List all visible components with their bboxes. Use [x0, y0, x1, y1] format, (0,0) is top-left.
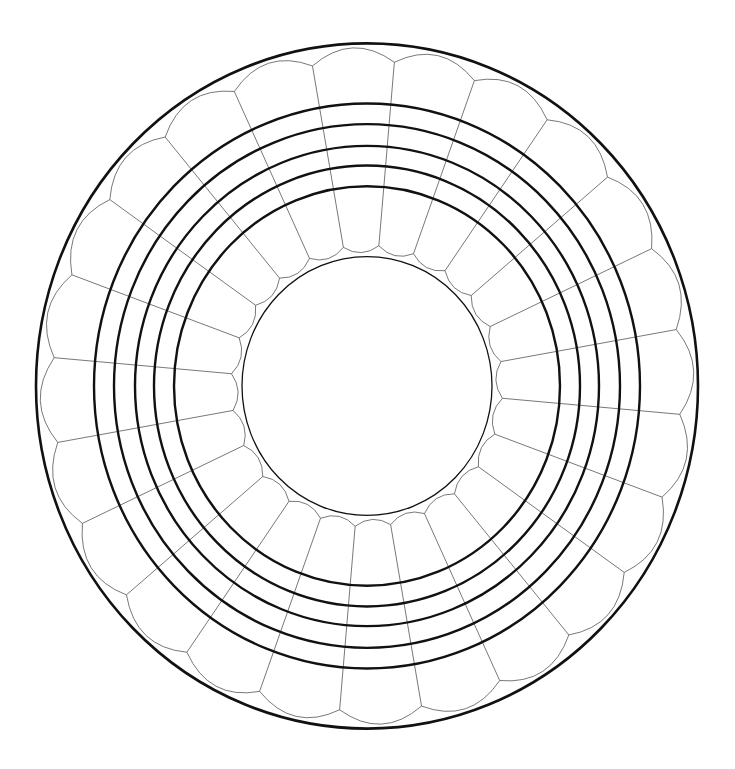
radial-spoke [424, 514, 499, 681]
radial-spokes [54, 62, 680, 710]
radial-spoke [379, 62, 395, 246]
ring-2 [154, 166, 580, 607]
diagram-svg [0, 0, 735, 769]
radial-spoke [501, 330, 676, 362]
inner-circle-group [242, 257, 492, 516]
radial-spoke [58, 410, 233, 442]
inner-scallop-boundary [232, 246, 503, 526]
inner-circle [242, 257, 492, 516]
radial-spoke [391, 525, 422, 706]
radial-spoke [312, 66, 343, 247]
radial-spoke [82, 445, 243, 523]
outer-scallop-path [40, 48, 693, 724]
ring-1 [174, 186, 560, 586]
radial-spoke [502, 398, 679, 414]
ring-5 [94, 103, 640, 668]
concentric-rings [94, 103, 640, 668]
radial-spoke [490, 249, 651, 327]
ring-4 [114, 124, 620, 648]
radial-spoke [234, 91, 309, 258]
ring-diagram [0, 0, 735, 769]
ring-3 [135, 146, 599, 626]
radial-spoke [54, 358, 231, 374]
radial-spoke [340, 526, 356, 710]
outer-scallop-boundary [40, 48, 693, 724]
inner-scallop-path [232, 246, 503, 526]
